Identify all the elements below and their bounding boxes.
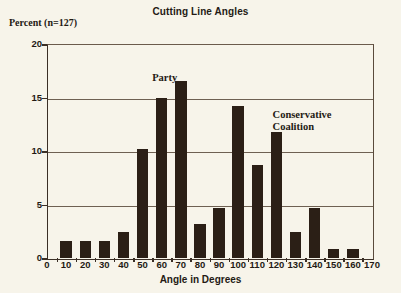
x-tick-mark xyxy=(286,258,288,262)
chart-annotation: Party xyxy=(152,72,177,84)
bar xyxy=(80,241,91,258)
gridline xyxy=(48,99,373,100)
y-tick-label: 20 xyxy=(12,38,42,49)
bar xyxy=(271,132,282,258)
y-tick-label: 5 xyxy=(12,199,42,210)
x-axis-title: Angle in Degrees xyxy=(0,274,401,285)
y-tick-mark xyxy=(42,205,47,207)
x-tick-mark xyxy=(114,258,116,262)
y-tick-mark xyxy=(42,44,47,46)
x-tick-mark xyxy=(57,258,59,262)
bar xyxy=(175,81,186,258)
chart-title: Cutting Line Angles xyxy=(0,6,401,17)
bar xyxy=(328,249,339,258)
bar xyxy=(156,98,167,259)
x-tick-mark xyxy=(210,258,212,262)
bar xyxy=(232,106,243,258)
x-tick-mark xyxy=(362,258,364,262)
x-tick-mark xyxy=(171,258,173,262)
gridline xyxy=(48,152,373,153)
x-tick-mark xyxy=(305,258,307,262)
bar xyxy=(137,149,148,258)
bar xyxy=(99,241,110,258)
x-tick-mark xyxy=(95,258,97,262)
y-tick-label: 10 xyxy=(12,145,42,156)
y-tick-mark xyxy=(42,151,47,153)
x-tick-mark xyxy=(248,258,250,262)
x-tick-mark xyxy=(152,258,154,262)
bar xyxy=(60,241,71,258)
x-tick-mark xyxy=(76,258,78,262)
x-tick-mark xyxy=(229,258,231,262)
y-tick-mark xyxy=(42,98,47,100)
y-axis-title: Percent (n=127) xyxy=(9,17,77,28)
plot-area xyxy=(47,44,374,260)
gridline xyxy=(48,206,373,207)
x-tick-mark xyxy=(343,258,345,262)
bar xyxy=(118,232,129,258)
x-tick-mark xyxy=(133,258,135,262)
bar xyxy=(252,165,263,258)
bar xyxy=(309,208,320,258)
cutting-line-angles-chart: Cutting Line Angles Percent (n=127) Angl… xyxy=(0,0,401,293)
x-tick-mark xyxy=(190,258,192,262)
bar xyxy=(213,208,224,258)
x-tick-mark xyxy=(267,258,269,262)
bar xyxy=(290,232,301,258)
bar xyxy=(194,224,205,258)
bar xyxy=(347,249,358,258)
chart-annotation: Conservative Coalition xyxy=(273,109,332,133)
x-tick-mark xyxy=(324,258,326,262)
y-tick-label: 15 xyxy=(12,92,42,103)
